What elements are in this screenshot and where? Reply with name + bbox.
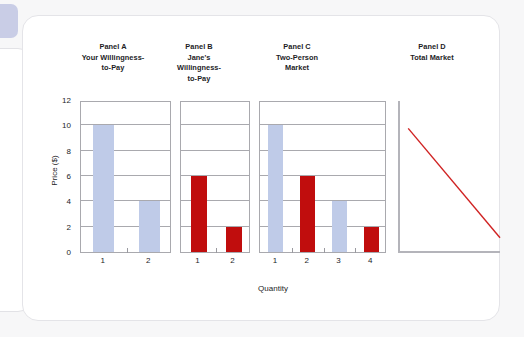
- bar-3: [332, 201, 347, 252]
- panel-d-demand-curve: [398, 101, 500, 253]
- panel-b-chart: 12: [180, 101, 250, 253]
- y-tick-8: 8: [49, 148, 71, 156]
- y-tick-4: 4: [49, 198, 71, 206]
- panel-a-chart: 12: [80, 101, 171, 253]
- y-tick-12: 12: [49, 97, 71, 105]
- x-tick-mark-1: [216, 248, 217, 253]
- gridline-10: [181, 124, 249, 125]
- x-tick-label-1: 1: [268, 256, 282, 265]
- gridline-8: [181, 150, 249, 151]
- panel-a-plot-area: [80, 101, 171, 253]
- y-axis-tick-labels: 024681012: [49, 101, 71, 253]
- x-tick-label-1: 1: [96, 256, 110, 265]
- y-tick-0: 0: [49, 249, 71, 257]
- x-tick-label-3: 3: [331, 256, 345, 265]
- panel-b-plot-area: [180, 101, 250, 253]
- bar-2: [139, 201, 160, 252]
- y-tick-6: 6: [49, 173, 71, 181]
- x-tick-mark-1: [292, 248, 293, 253]
- x-tick-label-1: 1: [191, 256, 205, 265]
- decorative-blue-tab: [0, 4, 18, 38]
- x-tick-label-4: 4: [363, 256, 377, 265]
- panel-c-chart: 1234: [259, 101, 386, 253]
- plot-region: Price ($) 024681012 Quantity 12 12 1234: [23, 16, 501, 322]
- bar-4: [364, 227, 379, 252]
- panel-c-plot-area: [259, 101, 386, 253]
- x-axis-label: Quantity: [203, 284, 343, 293]
- x-tick-mark-3: [355, 248, 356, 253]
- x-tick-label-2: 2: [226, 256, 240, 265]
- bar-1: [191, 176, 207, 252]
- bar-1: [268, 125, 283, 252]
- x-tick-mark-1: [127, 248, 128, 253]
- panel-d-chart: [398, 101, 500, 253]
- bar-2: [300, 176, 315, 252]
- x-tick-label-2: 2: [141, 256, 155, 265]
- bar-1: [93, 125, 114, 252]
- demand-line: [408, 128, 500, 237]
- y-tick-2: 2: [49, 224, 71, 232]
- panel-d-axes: [398, 101, 500, 253]
- x-tick-label-2: 2: [300, 256, 314, 265]
- y-tick-10: 10: [49, 122, 71, 130]
- figure-card: Panel A Your Willingness- to-Pay Panel B…: [22, 15, 500, 321]
- x-tick-mark-2: [324, 248, 325, 253]
- bar-2: [226, 227, 242, 252]
